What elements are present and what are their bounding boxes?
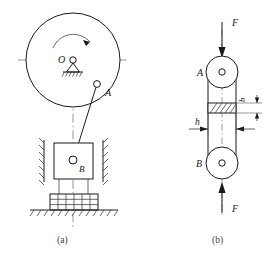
guide-rail-right xyxy=(103,138,108,185)
ground-support xyxy=(30,210,118,216)
upper-eye-hole xyxy=(219,69,225,75)
label-force-top: F xyxy=(231,17,239,28)
slider-pin-joint xyxy=(69,156,77,164)
lower-eye-joint xyxy=(206,147,238,179)
technical-figure: O A B xyxy=(0,0,279,253)
label-joint-b: B xyxy=(196,158,202,169)
force-arrow-top xyxy=(218,22,225,58)
slider-assembly: B xyxy=(39,138,108,194)
force-arrow-bottom xyxy=(218,182,225,213)
hatched-section xyxy=(208,103,236,113)
lower-eye-hole xyxy=(219,160,225,166)
thickness-dimension: b xyxy=(236,95,262,121)
label-joint-a: A xyxy=(196,67,204,78)
upper-eye-joint xyxy=(206,56,238,88)
section-band xyxy=(208,103,236,113)
panel-a-group: O A B xyxy=(18,13,128,246)
label-dim-b: b xyxy=(237,98,247,102)
panel-b-group: F A xyxy=(189,17,262,246)
caption-a: (a) xyxy=(57,235,68,246)
label-dim-h: h xyxy=(195,117,200,127)
label-crank-pin-a: A xyxy=(104,87,112,98)
ground-hatching xyxy=(30,210,118,216)
label-pivot-o: O xyxy=(58,54,65,65)
label-slider-b: B xyxy=(79,164,85,174)
caption-b: (b) xyxy=(212,235,223,246)
label-force-bottom: F xyxy=(231,203,239,214)
guide-rail-left xyxy=(39,138,44,185)
crank-pin-joint xyxy=(94,81,101,88)
figure-canvas: O A B xyxy=(0,0,279,253)
spring-base xyxy=(50,194,98,210)
